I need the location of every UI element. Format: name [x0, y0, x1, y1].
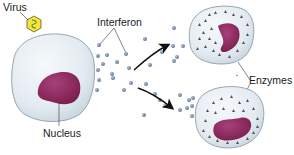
neighbor-cell-bottom: [195, 87, 264, 148]
interferon-molecules: [95, 26, 195, 118]
enzymes-leader-top: [236, 75, 238, 76]
label-nucleus: Nucleus: [43, 128, 81, 139]
infected-cell: [12, 34, 95, 122]
label-virus: Virus: [3, 2, 27, 13]
interferon-diagram: Virus Interferon Nucleus Enzymes: [0, 0, 294, 155]
label-interferon: Interferon: [97, 17, 142, 28]
neighbor-cell-top: [189, 6, 254, 64]
interferon-leader-b: [114, 28, 126, 53]
arrow-to-bottom-cell: [138, 88, 172, 108]
virus-icon: [27, 16, 41, 32]
label-enzymes: Enzymes: [249, 75, 292, 86]
virus-leader: [20, 12, 28, 20]
interferon-leader-a: [100, 28, 114, 44]
